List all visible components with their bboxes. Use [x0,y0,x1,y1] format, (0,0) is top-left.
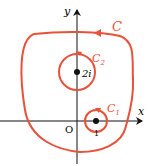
y-axis-label: y [63,5,71,18]
contour-c-arrow-icon [94,29,101,37]
tick-label-1: 1 [94,129,99,138]
origin-label: O [65,124,73,135]
point-2i-label: 2i [81,68,92,79]
point-1 [93,118,99,124]
x-axis-label: x [138,105,145,118]
contour-c-label: C [112,19,122,34]
contour-diagram: y x O 1 2i C C2 C1 [0,0,148,166]
contour-c2-label: C2 [92,52,105,67]
contour-c1-label: C1 [107,102,120,117]
point-2i [74,69,80,75]
